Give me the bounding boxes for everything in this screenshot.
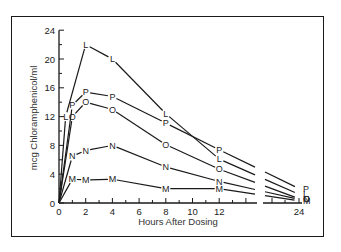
y-tick-label: 12	[44, 111, 55, 122]
data-point-marker: M	[69, 174, 77, 184]
data-point-marker: M	[82, 175, 90, 185]
line-chart: 0481216202402468101224 LLLLLLPPPPPPOOOOO…	[0, 0, 341, 252]
data-point-marker: N	[69, 151, 76, 161]
data-point-marker: P	[216, 145, 222, 155]
data-point-marker: N	[109, 141, 116, 151]
data-point-marker: L	[83, 40, 88, 50]
data-point-marker: O	[109, 105, 116, 115]
data-point-marker: O	[82, 97, 89, 107]
data-point-marker: M	[162, 184, 170, 194]
data-point-marker: P	[83, 87, 89, 97]
series-N: NNNNNN	[59, 141, 310, 205]
y-tick-label: 20	[44, 54, 55, 65]
data-point-marker: O	[69, 112, 76, 122]
data-point-marker: P	[303, 184, 309, 194]
y-axis-title: mcg Chloramphenicol/ml	[28, 66, 39, 171]
chart-series: LLLLLLPPPPPPOOOOOONNNNNNMMMMMM	[59, 40, 311, 206]
data-point-marker: N	[82, 146, 89, 156]
data-point-marker: P	[69, 100, 75, 110]
data-point-marker: P	[109, 92, 115, 102]
series-M: MMMMMM	[59, 174, 311, 205]
x-tick-label: 4	[110, 206, 115, 217]
y-tick-label: 4	[50, 169, 55, 180]
y-tick-label: 8	[50, 140, 55, 151]
data-point-marker: O	[216, 164, 223, 174]
data-point-marker: L	[63, 112, 68, 122]
data-point-marker: P	[163, 118, 169, 128]
series-L: LLLLLL	[59, 40, 308, 203]
data-point-marker: O	[162, 140, 169, 150]
series-O: OOOOOO	[59, 97, 310, 203]
data-point-marker: M	[215, 184, 223, 194]
x-tick-label: 0	[56, 206, 61, 217]
data-point-marker: L	[217, 154, 222, 164]
y-tick-label: 16	[44, 82, 55, 93]
y-tick-label: 0	[50, 198, 55, 209]
data-point-marker: N	[163, 162, 170, 172]
data-point-marker: M	[303, 196, 311, 206]
data-point-marker: L	[110, 54, 115, 64]
y-tick-label: 24	[44, 25, 55, 36]
x-tick-label: 24	[294, 206, 305, 217]
x-tick-label: 2	[83, 206, 88, 217]
x-axis-title: Hours After Dosing	[138, 216, 218, 227]
data-point-marker: M	[109, 174, 117, 184]
